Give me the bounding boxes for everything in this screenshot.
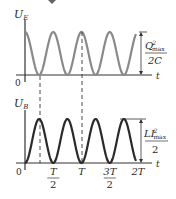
energy-oscillation-diagram: UE 0 t Q2max 2C UB 0 t LI2max 2 T2T3T22T [0,0,176,199]
bottom-y-label: UB [14,97,28,111]
top-origin-label: 0 [15,78,21,88]
x-tick-label: 2T [130,166,145,177]
x-tick-labels: T2T3T22T [47,166,146,190]
top-x-label: t [156,71,160,81]
x-tick-label: T [78,166,86,177]
top-arrow-mark [48,0,56,4]
magnetic-energy-curve [25,119,136,163]
bottom-origin-label: 0 [16,167,22,177]
top-plot: UE 0 t Q2max 2C [14,8,167,88]
bottom-amp-denominator: 2 [152,144,158,155]
top-amp-denominator: 2C [147,55,162,66]
x-tick-label: 3T [103,166,117,177]
top-y-label: UE [14,8,28,22]
x-tick-denominator: 2 [50,179,56,190]
top-amp-numerator: Q2max [145,39,165,52]
bottom-amp-numerator: LI2max [143,127,167,140]
electric-energy-curve [25,32,136,75]
x-tick-denominator: 2 [107,179,113,190]
bottom-plot: UB 0 t LI2max 2 T2T3T22T [14,97,168,190]
bottom-x-label: t [156,159,160,169]
x-tick-label: T [50,166,58,177]
